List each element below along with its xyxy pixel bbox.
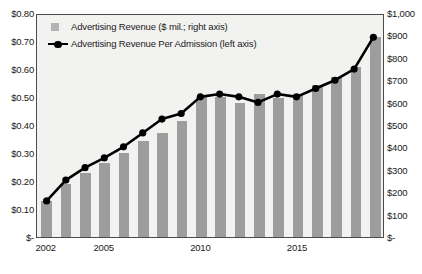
- left-axis-tick-label: $0.80: [0, 9, 34, 19]
- right-axis-tick-label: $700: [387, 76, 407, 86]
- right-axis-tick-label: $100: [387, 211, 407, 221]
- advertising-revenue-chart: $0.80$0.70$0.60$0.50$0.40$0.30$0.20$0.10…: [0, 0, 422, 274]
- line-marker: [120, 143, 127, 150]
- line-marker: [216, 91, 223, 98]
- x-axis-tick-label: 2005: [93, 243, 113, 253]
- line-marker: [370, 34, 377, 41]
- line-marker: [235, 93, 242, 100]
- x-axis-tick-label: 2010: [190, 243, 210, 253]
- right-axis: $1,000$900$800$700$600$500$400$300$200$1…: [387, 0, 422, 274]
- line-marker: [293, 93, 300, 100]
- left-axis-tick-label: $0.10: [0, 205, 34, 215]
- legend-bar-swatch-icon: [51, 23, 59, 31]
- left-axis-tick-label: $0.20: [0, 177, 34, 187]
- line-marker: [178, 110, 185, 117]
- left-axis-tick-label: $0.60: [0, 65, 34, 75]
- right-axis-tick-label: $-: [387, 233, 395, 243]
- legend-line-swatch-icon: [48, 40, 68, 48]
- line-marker: [158, 115, 165, 122]
- right-axis-tick-label: $500: [387, 121, 407, 131]
- line-marker: [62, 177, 69, 184]
- legend-item-line-label: Advertising Revenue Per Admission (left …: [71, 38, 256, 50]
- left-axis-tick-label: $-: [0, 233, 34, 243]
- right-axis-tick-label: $800: [387, 54, 407, 64]
- line-marker: [101, 154, 108, 161]
- line-marker: [81, 164, 88, 171]
- line-marker: [197, 93, 204, 100]
- chart-legend: Advertising Revenue ($ mil.; right axis)…: [48, 20, 256, 54]
- right-axis-tick-label: $900: [387, 31, 407, 41]
- left-axis-tick-label: $0.50: [0, 93, 34, 103]
- line-path: [47, 37, 374, 201]
- left-axis-tick-label: $0.70: [0, 37, 34, 47]
- line-markers: [43, 34, 377, 205]
- right-axis-tick-label: $300: [387, 166, 407, 176]
- line-marker: [43, 197, 50, 204]
- right-axis-tick-label: $600: [387, 99, 407, 109]
- line-marker: [274, 91, 281, 98]
- left-axis-tick-label: $0.30: [0, 149, 34, 159]
- line-marker: [254, 99, 261, 106]
- legend-item-bar: Advertising Revenue ($ mil.; right axis): [48, 20, 256, 34]
- left-axis-tick-label: $0.40: [0, 121, 34, 131]
- right-axis-tick-label: $400: [387, 143, 407, 153]
- right-axis-tick-label: $1,000: [387, 9, 415, 19]
- legend-item-bar-label: Advertising Revenue ($ mil.; right axis): [71, 21, 228, 33]
- line-marker: [139, 129, 146, 136]
- x-axis-tick-label: 2015: [287, 243, 307, 253]
- line-marker: [351, 66, 358, 73]
- left-axis: $0.80$0.70$0.60$0.50$0.40$0.30$0.20$0.10…: [0, 0, 34, 274]
- line-marker: [331, 77, 338, 84]
- line-marker: [312, 85, 319, 92]
- legend-item-line: Advertising Revenue Per Admission (left …: [48, 37, 256, 51]
- right-axis-tick-label: $200: [387, 188, 407, 198]
- x-axis-tick-label: 2002: [35, 243, 55, 253]
